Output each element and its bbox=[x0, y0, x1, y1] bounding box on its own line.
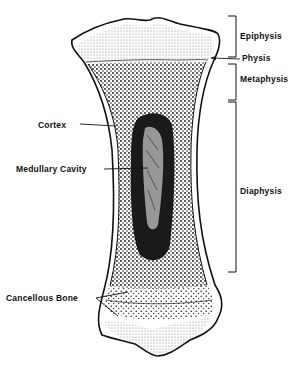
label-cancellous-bone: Cancellous Bone bbox=[6, 293, 78, 303]
brackets bbox=[228, 16, 236, 272]
label-physis: Physis bbox=[242, 53, 271, 63]
epiphysis-bracket bbox=[228, 16, 236, 57]
label-cortex: Cortex bbox=[38, 120, 66, 130]
label-epiphysis: Epiphysis bbox=[240, 31, 282, 41]
label-medullary-cavity: Medullary Cavity bbox=[16, 164, 87, 174]
label-diaphysis: Diaphysis bbox=[240, 186, 282, 196]
medullary-cavity bbox=[131, 113, 175, 260]
physis-leader bbox=[212, 58, 240, 59]
metaphysis-bracket bbox=[228, 64, 236, 100]
diaphysis-bracket bbox=[228, 102, 236, 272]
label-metaphysis: Metaphysis bbox=[240, 74, 288, 84]
